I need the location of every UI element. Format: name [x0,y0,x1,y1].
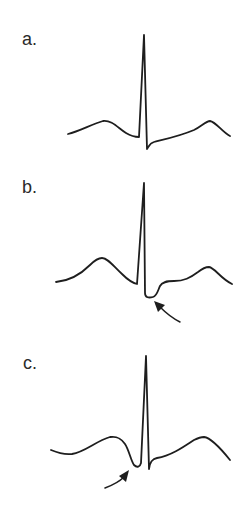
ecg-waveforms [0,0,252,509]
ecg-trace-b [56,183,232,298]
ecg-trace-a [68,35,230,149]
ecg-trace-c [51,356,230,469]
arrow-shaft-c [105,477,124,488]
arrow-shaft-b [160,307,180,322]
arrow-icon-b [154,301,180,322]
arrow-icon-c [105,470,129,488]
